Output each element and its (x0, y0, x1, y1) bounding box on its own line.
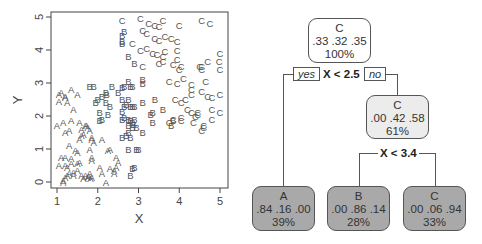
y-tick-label: 5 (33, 14, 45, 20)
point-a: A (66, 125, 73, 136)
point-b: B (152, 94, 158, 105)
node-class: C (367, 99, 428, 112)
point-a: A (99, 134, 106, 145)
node-probs: .00 .42 .58 (367, 112, 428, 125)
point-c: C (217, 89, 224, 100)
y-tick-label: 3 (33, 80, 45, 86)
split-rule-right: X < 3.4 (378, 147, 419, 160)
node-percent: 28% (328, 216, 389, 229)
tree-leaf-b: B .00 .86 .14 28% (327, 186, 390, 231)
node-class: C (404, 190, 465, 203)
x-tick-label: 1 (54, 195, 60, 207)
y-tick-label: 1 (33, 146, 45, 152)
point-a: A (103, 177, 110, 188)
point-b: B (97, 115, 103, 126)
point-c: C (198, 15, 205, 26)
point-b: B (150, 117, 156, 128)
point-a: A (80, 173, 87, 184)
point-b: B (125, 144, 131, 155)
point-c: C (137, 13, 144, 24)
point-a: A (66, 140, 73, 151)
node-class: C (309, 22, 370, 35)
y-tick-label: 4 (33, 47, 45, 53)
x-tick-label: 5 (217, 195, 223, 207)
y-tick-label: 0 (33, 179, 45, 185)
point-c: C (204, 56, 211, 67)
point-c: C (119, 15, 126, 26)
node-probs: .33 .32 .35 (309, 35, 370, 48)
point-c: C (208, 114, 215, 125)
point-c: C (176, 20, 183, 31)
point-c: C (206, 18, 213, 29)
point-b: B (119, 36, 125, 47)
node-class: B (328, 190, 389, 203)
point-b: B (139, 127, 145, 138)
point-a: A (111, 168, 118, 179)
point-b: B (105, 109, 111, 120)
point-a: A (56, 160, 63, 171)
x-tick-label: 3 (135, 195, 141, 207)
node-percent: 39% (253, 216, 314, 229)
point-c: C (143, 28, 150, 39)
point-c: C (166, 76, 173, 87)
point-b: B (139, 97, 145, 108)
point-b: B (91, 81, 97, 92)
point-b: B (127, 170, 133, 181)
node-percent: 100% (309, 48, 370, 61)
tree-leaf-a: A .84 .16 .00 39% (252, 186, 315, 231)
point-c: C (129, 38, 136, 49)
y-axis-label: Y (10, 95, 25, 104)
scatter-points: AAAAAAAAAAAAAAAAAAAAAAAAAAAAAAAAAAAAAAAA… (54, 13, 224, 187)
tree-leaf-c: C .00 .06 .94 33% (403, 186, 466, 231)
y-tick-label: 2 (33, 113, 45, 119)
connector (435, 153, 436, 186)
point-c: C (170, 114, 177, 125)
point-b: B (139, 78, 145, 89)
node-percent: 33% (404, 216, 465, 229)
point-c: C (217, 64, 224, 75)
connector (397, 74, 398, 96)
point-b: B (127, 132, 133, 143)
decision-tree: C .33 .32 .35 100% yes X < 2.5 no C .00 … (240, 0, 482, 244)
node-percent: 61% (367, 125, 428, 138)
point-c: C (180, 73, 187, 84)
scatter-plot: 12345 012345 X Y AAAAAAAAAAAAAAAAAAAAAAA… (0, 0, 240, 244)
point-c: C (188, 89, 195, 100)
x-tick-label: 4 (176, 195, 182, 207)
point-a: A (78, 130, 85, 141)
point-c: C (160, 56, 167, 67)
point-a: A (60, 177, 67, 188)
point-c: C (208, 92, 215, 103)
point-a: A (91, 137, 98, 148)
tree-node-root: C .33 .32 .35 100% (308, 18, 371, 63)
tree-node-right: C .00 .42 .58 61% (366, 95, 429, 139)
x-tick-label: 2 (95, 195, 101, 207)
point-b: B (135, 144, 141, 155)
connector (359, 153, 360, 186)
yes-label: yes (293, 67, 320, 81)
point-a: A (62, 92, 69, 103)
point-c: C (178, 115, 185, 126)
point-c: C (139, 61, 146, 72)
point-c: C (200, 120, 207, 131)
point-c: C (217, 107, 224, 118)
point-b: B (131, 101, 137, 112)
point-a: A (70, 170, 77, 181)
point-a: A (88, 152, 95, 163)
point-a: A (70, 104, 77, 115)
point-b: B (160, 104, 166, 115)
point-b: B (129, 81, 135, 92)
point-a: A (74, 89, 81, 100)
point-c: C (160, 15, 167, 26)
node-probs: .84 .16 .00 (253, 203, 314, 216)
node-class: A (253, 190, 314, 203)
no-label: no (364, 67, 386, 81)
point-a: A (68, 115, 75, 126)
x-axis-label: X (135, 211, 144, 226)
y-axis: 012345 (33, 14, 51, 185)
split-rule-root: X < 2.5 (321, 68, 362, 81)
point-b: B (131, 58, 137, 69)
node-probs: .00 .06 .94 (404, 203, 465, 216)
x-axis: 12345 (54, 188, 223, 207)
node-probs: .00 .86 .14 (328, 203, 389, 216)
